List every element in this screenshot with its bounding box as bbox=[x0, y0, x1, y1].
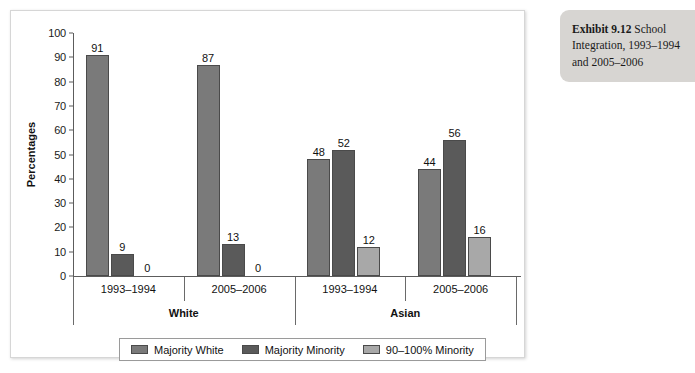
plot-area: 1009080706050403020100 91908713048521244… bbox=[73, 33, 516, 276]
bar-value-label: 16 bbox=[474, 224, 486, 236]
category-axis: 1993–19942005–20061993–19942005–2006Whit… bbox=[73, 277, 521, 325]
y-tick-mark bbox=[69, 57, 73, 58]
bar: 91 bbox=[86, 55, 109, 276]
bar-value-label: 0 bbox=[144, 262, 150, 274]
bar: 56 bbox=[443, 140, 466, 276]
bar: 44 bbox=[418, 169, 441, 276]
y-axis-title: Percentages bbox=[25, 33, 39, 276]
bar: 9 bbox=[111, 254, 134, 276]
legend-item: 90–100% Minority bbox=[363, 344, 474, 356]
axis-separator bbox=[73, 277, 74, 325]
legend-item: Majority Minority bbox=[242, 344, 345, 356]
bar-value-label: 87 bbox=[202, 52, 214, 64]
y-tick-mark bbox=[69, 203, 73, 204]
axis-separator bbox=[184, 277, 185, 301]
category-label: 2005–2006 bbox=[184, 277, 295, 301]
y-tick-mark bbox=[69, 178, 73, 179]
group-label: Asian bbox=[295, 301, 517, 325]
legend-swatch-icon bbox=[242, 345, 259, 354]
y-tick-mark bbox=[69, 130, 73, 131]
group-label: White bbox=[73, 301, 295, 325]
y-tick-mark bbox=[69, 105, 73, 106]
legend-label: Majority White bbox=[154, 344, 224, 356]
y-tick-mark bbox=[69, 81, 73, 82]
legend-label: 90–100% Minority bbox=[386, 344, 474, 356]
axis-separator bbox=[295, 277, 296, 325]
bar: 87 bbox=[197, 65, 220, 276]
bar: 52 bbox=[332, 150, 355, 276]
legend-item: Majority White bbox=[131, 344, 224, 356]
bar-value-label: 52 bbox=[338, 137, 350, 149]
bar: 48 bbox=[307, 159, 330, 276]
bar-value-label: 48 bbox=[313, 146, 325, 158]
y-tick-mark bbox=[69, 227, 73, 228]
y-tick-mark bbox=[69, 33, 73, 34]
y-tick-mark bbox=[69, 154, 73, 155]
bar-value-label: 13 bbox=[227, 231, 239, 243]
bar-value-label: 44 bbox=[424, 156, 436, 168]
bar: 16 bbox=[468, 237, 491, 276]
bar: 12 bbox=[357, 247, 380, 276]
bar-value-label: 56 bbox=[449, 127, 461, 139]
legend-swatch-icon bbox=[131, 345, 148, 354]
legend-swatch-icon bbox=[363, 345, 380, 354]
exhibit-number: Exhibit 9.12 bbox=[572, 23, 631, 35]
exhibit-caption: Exhibit 9.12 School Integration, 1993–19… bbox=[560, 10, 695, 82]
bar: 13 bbox=[222, 244, 245, 276]
bar-value-label: 9 bbox=[119, 241, 125, 253]
axis-separator bbox=[405, 277, 406, 301]
chart-panel: Percentages 1009080706050403020100 91908… bbox=[10, 10, 525, 358]
legend-label: Majority Minority bbox=[265, 344, 345, 356]
bar-value-label: 0 bbox=[255, 262, 261, 274]
bar-value-label: 12 bbox=[363, 234, 375, 246]
category-label: 1993–1994 bbox=[73, 277, 184, 301]
bar-value-label: 91 bbox=[91, 42, 103, 54]
axis-separator bbox=[516, 277, 517, 325]
chart-legend: Majority WhiteMajority Minority90–100% M… bbox=[119, 338, 486, 361]
category-label: 1993–1994 bbox=[295, 277, 406, 301]
category-label: 2005–2006 bbox=[405, 277, 516, 301]
y-tick-mark bbox=[69, 251, 73, 252]
